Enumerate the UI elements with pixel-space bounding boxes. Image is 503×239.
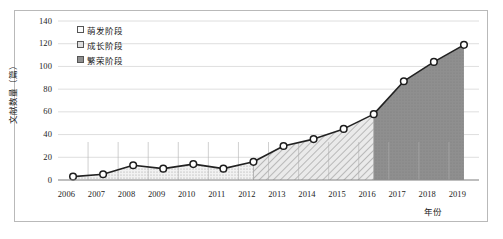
legend-item-prosperity: 繁荣阶段: [77, 52, 123, 67]
chart-legend: 萌发阶段 成长阶段 繁荣阶段: [77, 22, 123, 67]
x-tick-label: 2014: [292, 189, 322, 199]
x-tick-label: 2007: [81, 189, 111, 199]
x-tick-label: 2008: [112, 189, 142, 199]
legend-swatch-growth: [77, 41, 84, 48]
x-tick-label: 2013: [262, 189, 292, 199]
x-tick-label: 2011: [202, 189, 232, 199]
chart-plot-area: [0, 0, 503, 239]
x-tick-label: 2017: [382, 189, 412, 199]
legend-label-prosperity: 繁荣阶段: [87, 54, 123, 66]
legend-swatch-prosperity: [77, 56, 84, 63]
y-tick-label: 20: [30, 152, 52, 162]
legend-item-growth: 成长阶段: [77, 37, 123, 52]
y-tick-label: 60: [30, 106, 52, 116]
x-tick-label: 2018: [412, 189, 442, 199]
x-tick-label: 2016: [352, 189, 382, 199]
legend-label-growth: 成长阶段: [87, 39, 123, 51]
y-tick-label: 80: [30, 84, 52, 94]
x-tick-label: 2010: [172, 189, 202, 199]
y-tick-label: 100: [30, 61, 52, 71]
legend-label-germination: 萌发阶段: [87, 24, 123, 36]
legend-swatch-germination: [77, 26, 84, 33]
legend-item-germination: 萌发阶段: [77, 22, 123, 37]
x-tick-label: 2019: [442, 189, 472, 199]
y-tick-label: 0: [30, 175, 52, 185]
y-tick-label: 140: [30, 16, 52, 26]
x-tick-label: 2012: [232, 189, 262, 199]
y-tick-label: 40: [30, 129, 52, 139]
x-tick-label: 2015: [322, 189, 352, 199]
x-axis-title: 年份: [424, 205, 442, 217]
x-tick-label: 2006: [51, 189, 81, 199]
y-axis-title: 文献数量（篇）: [6, 59, 18, 125]
x-tick-label: 2009: [142, 189, 172, 199]
y-tick-label: 120: [30, 38, 52, 48]
